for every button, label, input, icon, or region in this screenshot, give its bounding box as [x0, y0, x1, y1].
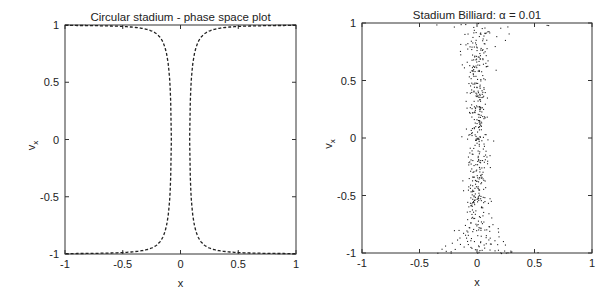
- y-tick-label: 0.5: [341, 75, 356, 87]
- y-tick-label: 1: [53, 19, 59, 31]
- phase-curve-right: [190, 25, 296, 253]
- y-tick-label: 0: [350, 132, 356, 144]
- y-tick-label: 0: [53, 134, 59, 146]
- x-tick-label: -0.5: [410, 257, 429, 269]
- y-tick-label: -0.5: [40, 191, 59, 203]
- y-tick-label: -1: [346, 247, 356, 259]
- x-tick-label: 0.5: [231, 258, 246, 270]
- x-axis-label: x: [474, 276, 480, 288]
- x-tick-label: -1: [357, 257, 367, 269]
- y-axis-label: vx: [322, 139, 337, 149]
- y-tick-label: -1: [49, 248, 59, 260]
- plot-frame: [65, 25, 296, 254]
- x-tick-label: -1: [60, 258, 70, 270]
- x-tick-label: 0: [177, 258, 183, 270]
- panel-stadium-billiard: Stadium Billiard: α = 0.01-1-0.500.5110.…: [322, 9, 595, 288]
- chart-canvas: Circular stadium - phase space plot-1-0.…: [0, 0, 613, 299]
- x-tick-label: 0.5: [527, 257, 542, 269]
- panel-circular-stadium: Circular stadium - phase space plot-1-0.…: [25, 11, 299, 289]
- y-tick-label: -0.5: [337, 190, 356, 202]
- chart-title: Circular stadium - phase space plot: [90, 11, 271, 23]
- x-axis-label: x: [178, 277, 184, 289]
- x-tick-label: 0: [474, 257, 480, 269]
- y-axis-label: vx: [25, 141, 40, 151]
- scatter-points: [436, 23, 549, 254]
- phase-curve-left: [65, 25, 171, 253]
- y-tick-label: 1: [350, 17, 356, 29]
- y-tick-label: 0.5: [44, 76, 59, 88]
- x-tick-label: 1: [293, 258, 299, 270]
- chart-title: Stadium Billiard: α = 0.01: [413, 9, 541, 21]
- x-tick-label: 1: [589, 257, 595, 269]
- x-tick-label: -0.5: [113, 258, 132, 270]
